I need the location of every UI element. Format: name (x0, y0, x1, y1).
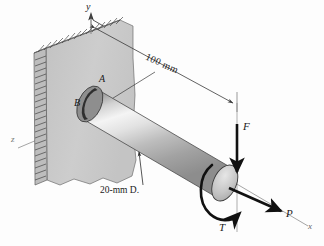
force-f-label: F (243, 121, 250, 132)
y-axis-label: y (86, 2, 90, 12)
point-b-label: B (74, 98, 80, 108)
point-a-label: A (99, 74, 105, 84)
diameter-leader-line (139, 152, 143, 185)
diameter-callout-group (139, 152, 143, 185)
diameter-callout-label: 20-mm D. (100, 186, 139, 196)
figure-canvas (0, 0, 324, 246)
force-p-label: P (286, 208, 293, 219)
engineering-figure: y z x A B 100 mm 20-mm D. F P T (0, 0, 324, 246)
z-axis-label: z (11, 135, 15, 144)
torque-t-label: T (219, 222, 225, 233)
x-axis-label: x (308, 222, 312, 231)
